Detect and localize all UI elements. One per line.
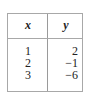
header-rule <box>8 38 82 39</box>
header-x: x <box>8 18 48 32</box>
cell-x: 3 <box>8 69 48 81</box>
header-y: y <box>48 18 84 32</box>
cell-y: −6 <box>48 69 78 81</box>
column-x-values: 1 2 3 <box>8 45 48 81</box>
xy-value-table: x y 1 2 3 2 −1 −6 <box>7 13 83 92</box>
column-y-values: 2 −1 −6 <box>48 45 78 81</box>
